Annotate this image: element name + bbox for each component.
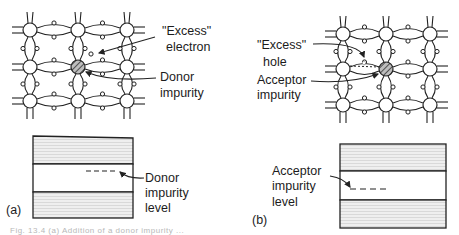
valence-electron — [406, 74, 410, 78]
valence-electron — [406, 96, 410, 100]
lattice-atom — [23, 23, 37, 37]
panel-a-tag: (a) — [6, 203, 21, 217]
valence-electron — [52, 21, 56, 25]
lattice-atom — [423, 62, 437, 76]
bond-stub — [75, 12, 76, 23]
conduction-band — [340, 144, 446, 171]
missing-bond-dashed — [350, 66, 379, 67]
bond-stub — [427, 16, 428, 27]
valence-electron — [362, 96, 366, 100]
valence-electron — [406, 60, 410, 64]
figure-caption: Fig. 13.4 (a) Addition of a donor impuri… — [10, 226, 184, 235]
lattice-atom — [120, 94, 134, 108]
band-diagram-acceptor — [330, 144, 446, 228]
bond-stub — [32, 12, 33, 23]
bond-stub — [124, 12, 125, 23]
valence-band — [33, 192, 133, 218]
bond-stub — [80, 12, 81, 23]
valence-electron — [52, 35, 56, 39]
valence-band — [340, 200, 446, 228]
valence-electron — [83, 46, 87, 50]
bond-stub — [340, 16, 341, 27]
lattice-atom — [23, 94, 37, 108]
valence-electron — [69, 46, 73, 50]
valence-electron — [334, 49, 338, 53]
excess-hole-label-line2: hole — [263, 55, 287, 69]
valence-electron — [52, 106, 56, 110]
acceptor-impurity-label-line2: impurity — [257, 88, 301, 102]
impurity-atom — [71, 60, 85, 74]
excess-electron-label-line2: electron — [166, 40, 210, 54]
valence-electron — [118, 82, 122, 86]
bond-stub — [345, 16, 346, 27]
valence-electron — [132, 46, 136, 50]
bond-stub — [388, 16, 389, 27]
valence-electron — [348, 49, 352, 53]
band-gap — [340, 171, 446, 200]
valence-electron — [406, 39, 410, 43]
excess-electron — [89, 52, 93, 56]
lattice-atom — [71, 94, 85, 108]
donor-impurity-arrow — [86, 72, 156, 79]
valence-electron — [132, 82, 136, 86]
valence-electron — [391, 85, 395, 89]
lattice-atom — [23, 60, 37, 74]
acceptor-level-label-line2: impurity — [272, 179, 316, 193]
valence-electron — [35, 46, 39, 50]
lattice-atom — [336, 27, 350, 41]
lattice-atom — [71, 23, 85, 37]
valence-electron — [406, 110, 410, 114]
valence-electron — [362, 25, 366, 29]
impurity-atom — [379, 62, 393, 76]
valence-electron — [21, 46, 25, 50]
lattice-acceptor — [325, 16, 448, 123]
valence-electron — [21, 82, 25, 86]
valence-electron — [391, 49, 395, 53]
valence-electron — [69, 82, 73, 86]
semiconductor-doping-diagram — [0, 0, 459, 235]
valence-electron — [377, 49, 381, 53]
bond-stub — [383, 16, 384, 27]
conduction-band — [33, 136, 133, 164]
valence-electron — [406, 25, 410, 29]
valence-electron — [100, 58, 104, 62]
valence-electron — [52, 72, 56, 76]
valence-electron — [435, 85, 439, 89]
valence-electron — [334, 85, 338, 89]
valence-electron — [100, 21, 104, 25]
lattice-atom — [336, 62, 350, 76]
valence-electron — [348, 85, 352, 89]
donor-level-label-line3: level — [145, 201, 171, 215]
band-diagram-donor — [33, 136, 144, 218]
lattice-atom — [120, 60, 134, 74]
valence-electron — [100, 92, 104, 96]
acceptor-level-label-line3: level — [272, 195, 298, 209]
valence-electron — [377, 85, 381, 89]
band-gap — [33, 164, 133, 192]
valence-electron — [421, 85, 425, 89]
donor-level-label-line2: impurity — [145, 186, 189, 200]
lattice-atom — [379, 98, 393, 112]
valence-electron — [362, 39, 366, 43]
valence-electron — [100, 72, 104, 76]
panel-b-tag: (b) — [252, 213, 267, 227]
valence-electron — [421, 49, 425, 53]
bond-stub — [129, 12, 130, 23]
donor-impurity-label-line2: impurity — [160, 86, 204, 100]
donor-impurity-label-line1: Donor — [160, 70, 194, 84]
lattice-atom — [120, 23, 134, 37]
acceptor-impurity-label-line1: Acceptor — [257, 73, 306, 87]
valence-electron — [83, 82, 87, 86]
valence-electron — [435, 49, 439, 53]
lattice-atom — [423, 27, 437, 41]
valence-electron — [35, 82, 39, 86]
valence-electron — [362, 110, 366, 114]
lattice-atom — [379, 27, 393, 41]
valence-electron — [52, 92, 56, 96]
excess-hole — [362, 61, 366, 65]
covalent-bond — [350, 71, 379, 75]
lattice-atom — [336, 98, 350, 112]
lattice-atom — [423, 98, 437, 112]
valence-electron — [52, 58, 56, 62]
excess-hole-label-line1: "Excess" — [257, 38, 306, 52]
